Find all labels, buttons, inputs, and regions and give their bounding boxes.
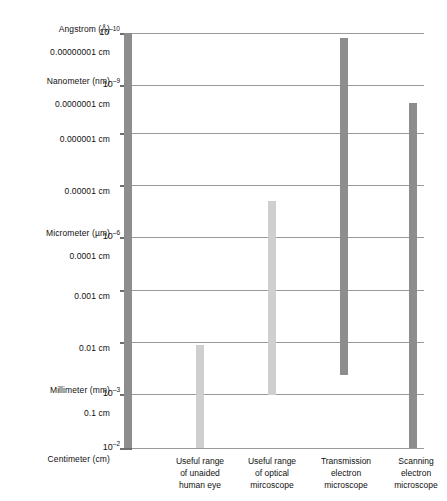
unit-label-nanometer: Nanometer (nm) 0.0000001 cm	[0, 64, 110, 122]
y-tick-label-1e-3: 10–3	[78, 388, 120, 398]
y-tick-label-1e-10: 10–10	[78, 27, 120, 37]
y-tick-exponent: –10	[109, 25, 120, 32]
y-axis-bar	[124, 33, 132, 448]
unit-label-line1: Centimeter (cm)	[0, 454, 110, 466]
unit-label-micrometer: Micrometer (µm) 0.0001 cm	[0, 216, 110, 274]
y-tick-mantissa: 10	[99, 27, 109, 37]
range-bar-scanning-electron-microscope	[409, 103, 417, 448]
gridline-1e-9	[131, 85, 424, 86]
gridline-1e-5	[131, 290, 424, 291]
unit-label-line2: 0.0001 cm	[0, 251, 110, 263]
y-tick-exponent: –2	[113, 440, 120, 447]
unit-label-line2: 0.01 cm	[0, 343, 110, 355]
unit-label-line2: 0.001 cm	[0, 291, 110, 303]
y-tick-label-1e-6: 10–6	[78, 231, 120, 241]
microscopy-resolution-chart: Angstrom (Å) 0.00000001 cm Nanometer (nm…	[0, 0, 447, 501]
y-tick-mantissa: 10	[103, 231, 113, 241]
gridline-1e-10	[131, 33, 424, 34]
unit-label-1e-5: 0.001 cm	[0, 279, 110, 314]
unit-label-line2: 0.00000001 cm	[0, 47, 110, 59]
gridline-1e-3	[131, 394, 424, 395]
unit-label-line2: 0.00001 cm	[0, 186, 110, 198]
y-tick-exponent: –3	[113, 386, 120, 393]
unit-label-1e-7: 0.00001 cm	[0, 174, 110, 209]
y-tick-mantissa: 10	[103, 388, 113, 398]
unit-label-line2: 0.000001 cm	[0, 134, 110, 146]
y-tick-mantissa: 10	[103, 442, 113, 452]
y-tick-label-1e-2: 10–2	[78, 442, 120, 452]
category-label-optical-microscope: Useful range of optical mircoscope	[232, 455, 312, 491]
gridline-baseline-1e-2	[131, 448, 424, 449]
unit-label-millimeter: Millimeter (mm) 0.1 cm	[0, 373, 110, 431]
gridline-1e-8	[131, 133, 424, 134]
gridline-1e-7	[131, 185, 424, 186]
tick-1e-2	[120, 448, 132, 450]
unit-label-1e-8: 0.000001 cm	[0, 122, 110, 157]
gridline-1e-4	[131, 342, 424, 343]
unit-label-line2: 0.0000001 cm	[0, 99, 110, 111]
unit-label-line2: 0.1 cm	[0, 408, 110, 420]
unit-label-1e-4: 0.01 cm	[0, 331, 110, 366]
range-bar-transmission-electron-microscope	[340, 38, 348, 375]
category-label-human-eye: Useful range of unaided human eye	[160, 455, 240, 491]
y-tick-label-1e-9: 10–9	[78, 79, 120, 89]
unit-label-angstrom: Angstrom (Å) 0.00000001 cm	[0, 12, 110, 70]
y-tick-exponent: –6	[113, 229, 120, 236]
range-bar-human-eye	[196, 345, 204, 448]
y-tick-exponent: –9	[113, 77, 120, 84]
range-bar-optical-microscope	[268, 201, 276, 395]
gridline-1e-6	[131, 237, 424, 238]
category-label-scanning-electron-microscope: Scanning electron microscope	[376, 455, 447, 491]
y-tick-mantissa: 10	[103, 79, 113, 89]
